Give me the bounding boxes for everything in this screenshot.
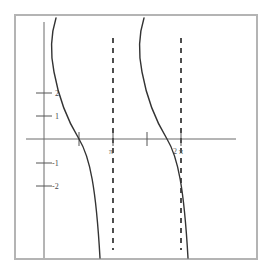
- y-tick-label-minus-2: -2: [52, 182, 59, 191]
- y-tick-label-minus-1: -1: [52, 159, 59, 168]
- cotangent-plot: 2 1 -1 -2 π 2 π: [0, 0, 275, 277]
- y-tick-label-1: 1: [55, 112, 59, 121]
- plot-canvas: 2 1 -1 -2 π 2 π: [0, 0, 275, 277]
- asymptote-pi-label: π: [109, 147, 113, 156]
